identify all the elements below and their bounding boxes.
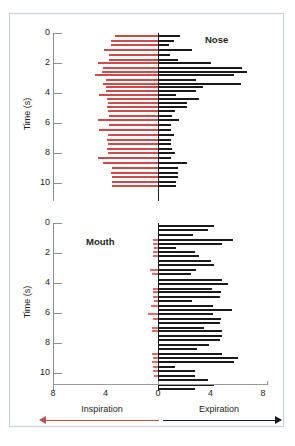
bar-nose-inspiration-12 xyxy=(106,86,159,88)
bar-mouth-expiration-17 xyxy=(158,300,192,302)
y-axis-line-mouth xyxy=(53,223,54,391)
x-axis-cap-right xyxy=(267,381,268,385)
bar-nose-inspiration-30 xyxy=(112,167,158,169)
bar-mouth-expiration-32 xyxy=(158,366,175,368)
bar-mouth-expiration-16 xyxy=(158,296,220,298)
x-axis: 84048 xyxy=(0,384,295,400)
bar-nose-inspiration-11 xyxy=(103,83,158,85)
bar-nose-expiration-10 xyxy=(158,79,196,81)
respiratory-flow-figure: Time (s) 0246810 Nose Time (s) 0246810 M… xyxy=(0,0,295,446)
bar-mouth-expiration-28 xyxy=(158,348,197,350)
bar-nose-expiration-20 xyxy=(158,119,179,121)
bar-mouth-expiration-33 xyxy=(158,370,195,372)
bar-nose-inspiration-33 xyxy=(112,181,158,183)
bar-nose-inspiration-2 xyxy=(111,44,158,46)
y-tick-nose-4: 4 xyxy=(53,93,62,94)
y-tick-mouth-2: 2 xyxy=(53,253,62,254)
plot-area-mouth: 0246810 xyxy=(53,223,268,391)
bar-mouth-expiration-3 xyxy=(158,239,233,241)
bar-nose-expiration-25 xyxy=(158,143,171,145)
bar-nose-expiration-23 xyxy=(158,134,174,136)
x-axis-cap-left xyxy=(53,381,54,385)
bar-nose-inspiration-15 xyxy=(107,98,158,100)
bar-nose-inspiration-10 xyxy=(106,79,159,81)
y-axis-title-mouth: Time (s) xyxy=(22,285,32,318)
bar-mouth-expiration-2 xyxy=(158,234,193,236)
x-tick-label-4: 8 xyxy=(260,388,265,398)
bar-nose-expiration-19 xyxy=(158,115,172,117)
bar-nose-expiration-22 xyxy=(158,129,171,131)
bar-nose-expiration-4 xyxy=(158,54,170,56)
bar-nose-expiration-34 xyxy=(158,185,176,187)
y-tick-label-mouth-0: 0 xyxy=(45,217,50,228)
bar-nose-inspiration-6 xyxy=(98,62,158,64)
panel-label-nose: Nose xyxy=(205,34,228,45)
y-tick-label-mouth-6: 6 xyxy=(45,307,50,318)
bar-mouth-expiration-8 xyxy=(158,260,211,262)
x-tick-label-2: 0 xyxy=(155,388,160,398)
bar-mouth-expiration-26 xyxy=(158,339,220,341)
bar-nose-expiration-6 xyxy=(158,62,211,64)
bar-nose-inspiration-20 xyxy=(98,119,158,121)
bar-nose-expiration-14 xyxy=(158,94,176,96)
bar-mouth-expiration-22 xyxy=(158,322,220,324)
bar-nose-expiration-31 xyxy=(158,172,178,174)
y-tick-mouth-10: 10 xyxy=(53,373,62,374)
bar-mouth-expiration-0 xyxy=(158,225,214,227)
bar-nose-expiration-13 xyxy=(158,90,196,92)
bar-nose-expiration-15 xyxy=(158,98,199,100)
bar-mouth-inspiration-10 xyxy=(150,269,158,271)
bar-nose-inspiration-23 xyxy=(108,134,158,136)
bar-nose-inspiration-29 xyxy=(103,162,158,164)
bar-nose-expiration-24 xyxy=(158,139,171,141)
y-tick-mouth-8: 8 xyxy=(53,343,62,344)
bar-nose-expiration-21 xyxy=(158,124,171,126)
expiration-arrow-head-icon xyxy=(275,416,282,424)
y-tick-nose-10: 10 xyxy=(53,183,62,184)
y-tick-mouth-0: 0 xyxy=(53,223,62,224)
bar-nose-expiration-33 xyxy=(158,181,176,183)
bar-nose-inspiration-25 xyxy=(108,143,158,145)
y-tick-nose-2: 2 xyxy=(53,63,62,64)
bar-nose-inspiration-22 xyxy=(99,129,158,131)
x-axis-line xyxy=(53,384,268,385)
bar-nose-expiration-32 xyxy=(158,176,178,178)
bar-mouth-expiration-34 xyxy=(158,375,195,377)
bar-nose-expiration-26 xyxy=(158,148,172,150)
bar-nose-expiration-0 xyxy=(158,35,180,37)
panel-mouth: Time (s) 0246810 Mouth xyxy=(0,214,295,389)
bar-nose-expiration-18 xyxy=(158,110,175,112)
bar-nose-inspiration-18 xyxy=(108,110,158,112)
bar-nose-inspiration-17 xyxy=(107,106,158,108)
inspiration-arrow-head-icon xyxy=(39,416,46,424)
bar-nose-inspiration-28 xyxy=(98,157,158,159)
bar-mouth-inspiration-18 xyxy=(151,305,158,307)
y-tick-label-mouth-10: 10 xyxy=(40,367,50,378)
bar-mouth-expiration-6 xyxy=(158,251,195,253)
bar-mouth-expiration-12 xyxy=(158,279,222,281)
bar-mouth-expiration-13 xyxy=(158,283,228,285)
y-tick-label-mouth-2: 2 xyxy=(45,247,50,258)
y-tick-label-mouth-4: 4 xyxy=(45,277,50,288)
bar-nose-inspiration-0 xyxy=(115,35,158,37)
bar-nose-expiration-2 xyxy=(158,44,169,46)
bar-nose-inspiration-27 xyxy=(108,152,158,154)
bar-nose-inspiration-7 xyxy=(103,67,158,69)
bar-nose-inspiration-8 xyxy=(102,71,158,73)
bar-nose-expiration-9 xyxy=(158,74,234,76)
bar-nose-inspiration-19 xyxy=(109,115,158,117)
bar-mouth-expiration-24 xyxy=(158,330,222,332)
y-tick-nose-6: 6 xyxy=(53,123,62,124)
bar-nose-expiration-27 xyxy=(158,152,175,154)
bar-nose-expiration-3 xyxy=(158,49,192,51)
legend-inspiration-label: Inspiration xyxy=(81,404,123,414)
bar-mouth-expiration-21 xyxy=(158,318,221,320)
bar-nose-inspiration-9 xyxy=(95,74,158,76)
bar-mouth-expiration-35 xyxy=(158,379,208,381)
bar-mouth-expiration-30 xyxy=(158,357,238,359)
bar-nose-inspiration-3 xyxy=(104,49,158,51)
bar-mouth-expiration-1 xyxy=(158,229,208,231)
y-tick-nose-8: 8 xyxy=(53,153,62,154)
bar-mouth-inspiration-20 xyxy=(148,313,158,315)
bar-nose-inspiration-21 xyxy=(109,124,158,126)
